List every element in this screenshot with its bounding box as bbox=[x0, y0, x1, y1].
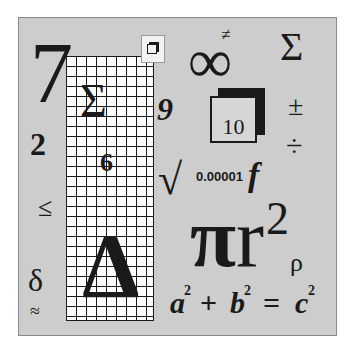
icon-front bbox=[147, 44, 157, 54]
ten-label: 10 bbox=[223, 114, 245, 140]
radius-exponent: 2 bbox=[266, 196, 289, 242]
plus-minus-symbol: ± bbox=[288, 92, 303, 120]
equation-c-exponent: 2 bbox=[308, 284, 315, 298]
small-decimal-number: 0.00001 bbox=[196, 170, 243, 183]
numeral-six: 6 bbox=[100, 150, 113, 176]
ten-box: 10 bbox=[210, 96, 257, 143]
function-f-symbol: f bbox=[248, 158, 259, 192]
window-restore-icon bbox=[141, 35, 165, 63]
delta-lower-symbol: δ bbox=[28, 264, 43, 296]
numeral-nine: 9 bbox=[157, 93, 173, 125]
equation-plus: + bbox=[200, 288, 217, 318]
approx-symbol: ≈ bbox=[30, 302, 40, 320]
less-equal-symbol: ≤ bbox=[38, 195, 52, 221]
sigma-symbol-right: Σ bbox=[280, 27, 303, 67]
equation-b-exponent: 2 bbox=[244, 284, 251, 298]
equation-equals: = bbox=[263, 288, 280, 318]
equation-c: c bbox=[295, 288, 308, 318]
equation-b: b bbox=[230, 288, 245, 318]
rho-symbol: ρ bbox=[290, 250, 303, 276]
numeral-two: 2 bbox=[30, 128, 46, 160]
equation-a: a bbox=[170, 288, 185, 318]
divide-symbol: ÷ bbox=[286, 131, 302, 161]
square-root-symbol: √ bbox=[158, 158, 182, 202]
infinity-symbol: ∞ bbox=[188, 30, 232, 92]
equation-a-exponent: 2 bbox=[184, 284, 191, 298]
pi-symbol: π bbox=[190, 196, 236, 280]
sigma-symbol-grid: Σ bbox=[80, 78, 107, 124]
radius-r-symbol: r bbox=[236, 196, 264, 280]
delta-upper-symbol: Δ bbox=[82, 220, 140, 312]
numeral-seven: 7 bbox=[30, 30, 73, 116]
